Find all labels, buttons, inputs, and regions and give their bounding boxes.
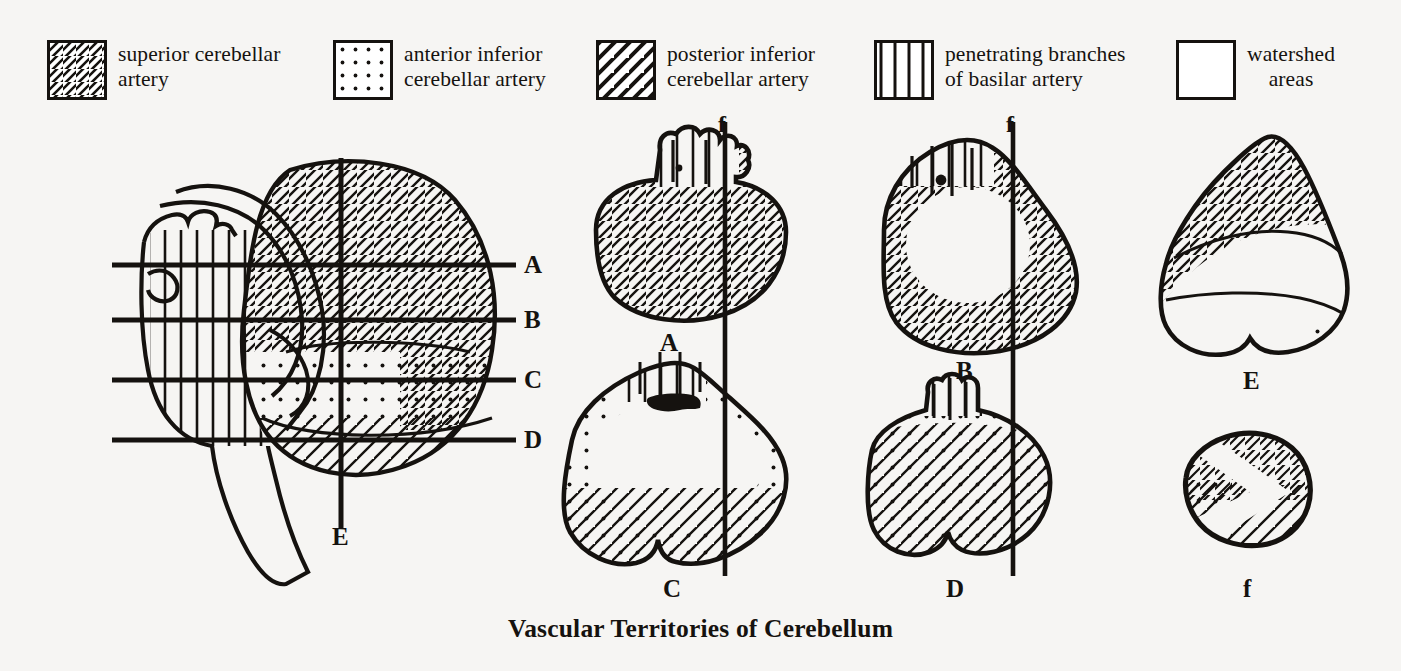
f-plane-label-right: f: [1006, 112, 1014, 136]
lateral-view: [112, 150, 520, 584]
section-panel-f: [1180, 430, 1320, 560]
panel-caption-C: C: [663, 576, 681, 601]
lateral-label-A: A: [524, 252, 542, 277]
lateral-medulla: [212, 446, 308, 584]
lateral-label-D: D: [524, 427, 542, 452]
panel-E-watershed-pica-boundary: [1166, 293, 1344, 314]
panel-caption-E: E: [1243, 368, 1260, 393]
panel-caption-f: f: [1243, 576, 1251, 601]
panel-caption-A: A: [660, 330, 678, 355]
section-panel-C: [560, 352, 800, 580]
panel-C-pica-territory: [560, 488, 800, 580]
panel-E-aica-territory: [1302, 324, 1356, 420]
figure-title: Vascular Territories of Cerebellum: [0, 614, 1401, 644]
lateral-label-C: C: [524, 367, 542, 392]
panel-caption-D: D: [946, 576, 964, 601]
lateral-caption-E: E: [332, 524, 349, 549]
panel-B-basilar-territory: [900, 130, 994, 186]
panel-caption-B: B: [956, 358, 973, 383]
section-panel-D: [860, 372, 1070, 570]
panel-C-fourth-ventricle: [647, 394, 701, 412]
lateral-label-B: B: [524, 307, 541, 332]
diagram-canvas: [0, 0, 1401, 671]
f-plane-label-left: f: [718, 112, 726, 136]
section-panel-B: [878, 130, 1088, 360]
lateral-aica-territory: [255, 352, 500, 420]
panel-B-midline-dot: [936, 175, 947, 186]
vascular-territories-figure: superior cerebellar artery anterior infe…: [0, 0, 1401, 671]
section-panel-A: [590, 125, 800, 335]
panel-A-midline-dot: [676, 165, 683, 172]
